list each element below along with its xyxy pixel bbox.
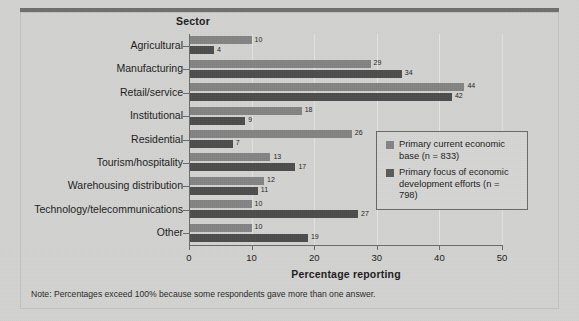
bar-group: 1019 <box>189 222 502 245</box>
bar-value-label: 34 <box>405 69 413 77</box>
bar-value-label: 12 <box>267 176 275 184</box>
bar <box>189 93 452 101</box>
bar <box>189 224 252 232</box>
category-label: Institutional <box>3 110 183 121</box>
bar-value-label: 10 <box>255 36 263 44</box>
x-axis-tick <box>314 245 315 250</box>
legend-swatch-icon <box>386 141 394 149</box>
x-axis-tick-label: 40 <box>424 252 454 263</box>
y-axis-tick <box>183 93 189 94</box>
bar-group: 189 <box>189 104 502 127</box>
category-label: Agricultural <box>3 40 183 51</box>
bar <box>189 234 308 242</box>
bar <box>189 163 295 171</box>
bar <box>189 36 252 44</box>
y-axis-title: Sector <box>148 15 238 27</box>
bar-value-label: 7 <box>236 139 240 147</box>
category-label: Retail/service <box>3 87 183 98</box>
x-axis-tick-label: 20 <box>299 252 329 263</box>
legend-swatch-icon <box>386 169 394 177</box>
bar <box>189 177 264 185</box>
bar-value-label: 42 <box>455 92 463 100</box>
bar-value-label: 10 <box>255 223 263 231</box>
bar-group: 4442 <box>189 81 502 104</box>
bar-value-label: 18 <box>305 106 313 114</box>
y-axis-tick <box>183 46 189 47</box>
chart-figure: Sector 104293444421892671317121110271019… <box>0 0 579 321</box>
x-axis-line <box>189 245 503 246</box>
bar <box>189 140 233 148</box>
category-label: Manufacturing <box>3 63 183 74</box>
y-axis-line <box>189 34 190 246</box>
bar <box>189 200 252 208</box>
bar <box>189 117 245 125</box>
bar <box>189 107 302 115</box>
bar-value-label: 9 <box>248 116 252 124</box>
x-axis-tick <box>252 245 253 250</box>
category-label: Warehousing distribution <box>3 180 183 191</box>
bar-value-label: 13 <box>273 153 281 161</box>
bar <box>189 70 402 78</box>
x-axis-tick-label: 0 <box>174 252 204 263</box>
bar <box>189 83 464 91</box>
x-axis-tick <box>502 245 503 250</box>
bar-value-label: 11 <box>261 186 268 194</box>
bar <box>189 187 258 195</box>
chart-legend: Primary current economic base (n = 833) … <box>376 131 528 210</box>
bar-value-label: 10 <box>255 200 263 208</box>
x-axis-title: Percentage reporting <box>189 268 503 280</box>
bar <box>189 210 358 218</box>
bar-value-label: 26 <box>355 129 363 137</box>
figure-footnote: Note: Percentages exceed 100% because so… <box>31 289 375 299</box>
bar-group: 104 <box>189 34 502 57</box>
x-axis-tick-label: 10 <box>237 252 267 263</box>
category-label: Other <box>3 227 183 238</box>
bar <box>189 46 214 54</box>
category-label: Residential <box>3 134 183 145</box>
bar-value-label: 44 <box>467 82 475 90</box>
x-axis-tick-label: 30 <box>362 252 392 263</box>
x-axis-tick <box>439 245 440 250</box>
bar-value-label: 17 <box>298 163 306 171</box>
bar-value-label: 4 <box>217 46 221 54</box>
x-axis-tick <box>189 245 190 250</box>
y-axis-tick <box>183 163 189 164</box>
legend-entry-label: Primary focus of economic development ef… <box>399 167 519 202</box>
y-axis-tick <box>183 69 189 70</box>
y-axis-tick <box>183 140 189 141</box>
y-axis-tick <box>183 116 189 117</box>
x-axis-tick-label: 50 <box>487 252 517 263</box>
legend-entry-primary-current-economic-base: Primary current economic base (n = 833) <box>386 139 519 162</box>
category-label: Tourism/hospitality <box>3 157 183 168</box>
bar-group: 2934 <box>189 57 502 80</box>
bar-value-label: 19 <box>311 233 319 241</box>
bar-value-label: 27 <box>361 210 369 218</box>
y-axis-tick <box>183 233 189 234</box>
bar-value-label: 29 <box>374 59 382 67</box>
bar <box>189 153 270 161</box>
legend-entry-label: Primary current economic base (n = 833) <box>399 139 519 162</box>
bar <box>189 130 352 138</box>
legend-entry-primary-focus-economic-development: Primary focus of economic development ef… <box>386 167 519 202</box>
x-axis-tick <box>377 245 378 250</box>
category-label: Technology/telecommunications <box>3 204 183 215</box>
y-axis-tick <box>183 186 189 187</box>
bar <box>189 60 371 68</box>
y-axis-tick <box>183 210 189 211</box>
